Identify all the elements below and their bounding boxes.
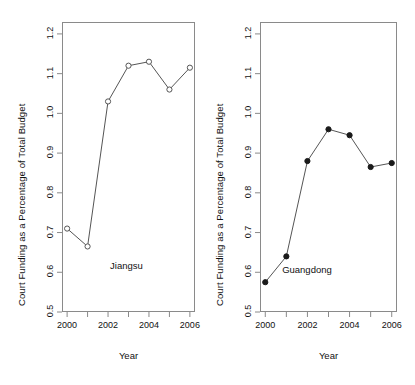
x-axis-title-right: Year: [260, 350, 397, 361]
series-plot-left: [0, 0, 207, 385]
panel-guangdong: Court Funding as a Percentage of Total B…: [207, 0, 415, 385]
chart-figure: Court Funding as a Percentage of Total B…: [0, 0, 415, 385]
panel-jiangsu: Court Funding as a Percentage of Total B…: [0, 0, 207, 385]
panel-label-guangdong: Guangdong: [282, 264, 332, 275]
x-axis-title-left: Year: [62, 350, 195, 361]
series-plot-right: [207, 0, 415, 385]
panel-label-jiangsu: Jiangsu: [110, 260, 143, 271]
